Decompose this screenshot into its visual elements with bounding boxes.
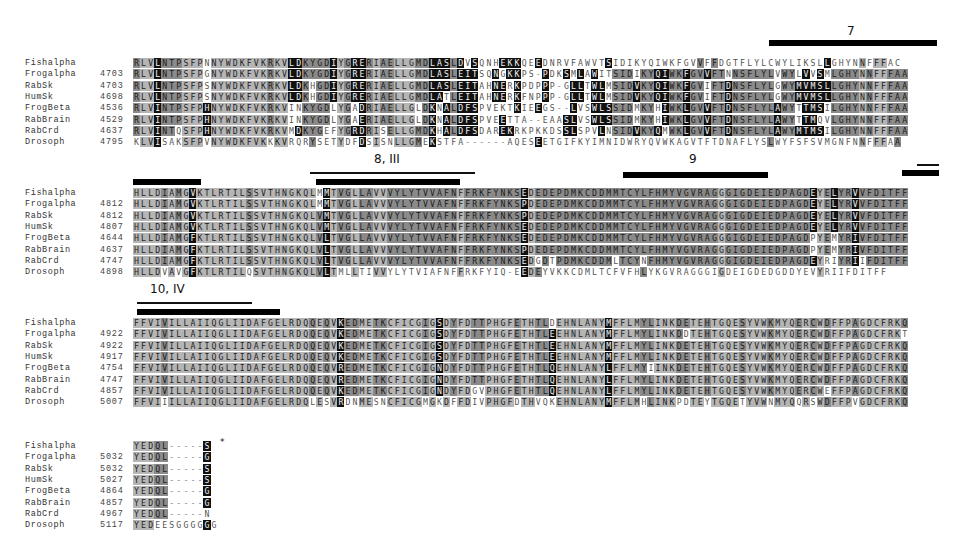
residue-number: 4637: [100, 245, 124, 256]
species-name: HumSk: [25, 222, 54, 233]
sequence: RLVLNTPSFPSNYWDKFVKRKVLDKHGDIYGRERIAELLG…: [133, 92, 908, 102]
residue-number: 4529: [100, 115, 124, 126]
sequence: RLVLNTPSFPNNYWDKFVKRKVLDKYGDIYGRERIAELLG…: [133, 58, 901, 68]
helix-bar: [769, 40, 937, 46]
sequence: YEDQL-----G: [133, 498, 211, 508]
sequence: RLVLNTPSFPGNYWDKFVKRKVLDKYGDIYGRERIAELLG…: [133, 69, 908, 79]
sequence: FFVIVILLAIIQGLIIDAFGELRDQQEQVREDMETKCFIC…: [133, 375, 908, 385]
sequence: YEDQL-----S: [133, 464, 211, 474]
sequence: YEDEESGGGGGG: [133, 520, 218, 530]
residue-number: 4747: [100, 375, 124, 386]
species-name: Frogalpha: [25, 69, 76, 80]
species-name: RabCrd: [25, 509, 59, 520]
species-name: RabSk: [25, 81, 54, 92]
residue-number: 4922: [100, 341, 124, 352]
segment-underline: [917, 164, 939, 166]
sequence: YEDQL-----S: [133, 441, 211, 451]
species-name: RabCrd: [25, 126, 59, 137]
helix-bar: [133, 179, 201, 185]
residue-number: 4812: [100, 199, 124, 210]
residue-number: 4857: [100, 386, 124, 397]
sequence: FFVIVILLAIIQGLIIDAFGELRDQQEQVREDMETKCFIC…: [133, 363, 908, 373]
residue-number: 4922: [100, 329, 124, 340]
residue-number: 4747: [100, 256, 124, 267]
residue-number: 4644: [100, 233, 124, 244]
sequence: FFVIIILLAIIQGLIIDAFGELRDQLESVRDNMESNCFIC…: [133, 397, 908, 407]
helix-bar: [137, 309, 280, 315]
residue-number: 5027: [100, 475, 124, 486]
sequence: RLVINTPSFPHNYWDKFVKRKVINKYGDLYGADRIAELLG…: [133, 103, 908, 113]
sequence: HLLDIAMGFKTLRTILSSVTHNGKQLVLTVGLLAVVVYLY…: [133, 256, 908, 266]
sequence: KLVISAKSFPVNYWDKFVKKKVRQRYSETYDFDSISNLLG…: [133, 137, 901, 147]
sequence: FFVIVILLAIIQGLIIDAFGELRDQQEQVKEDMETKCFIC…: [133, 318, 908, 328]
species-name: Drosoph: [25, 397, 65, 408]
species-name: RabBrain: [25, 245, 71, 256]
segment-label: 8, III: [374, 152, 400, 166]
segment-label: 9: [689, 152, 697, 166]
sequence: FFVIVILLAIIQGLIIDAFGELRDQQEQVKEDMETKCFIC…: [133, 329, 908, 339]
residue-number: 4917: [100, 352, 124, 363]
segment-underline: [137, 302, 252, 304]
species-name: RabSk: [25, 464, 54, 475]
species-name: FrogBeta: [25, 103, 71, 114]
segment-label: *: [220, 437, 225, 447]
residue-number: 4637: [100, 126, 124, 137]
residue-number: 4703: [100, 69, 124, 80]
sequence: YEDQL-----S: [133, 475, 211, 485]
residue-number: 4698: [100, 92, 124, 103]
residue-number: 4864: [100, 486, 124, 497]
residue-number: 5032: [100, 464, 124, 475]
sequence: RLVLNTPSFPSNYWDKFVKRKVLDKHGDIYGRERIAELLG…: [133, 81, 908, 91]
sequence: YEDQL-----N: [133, 509, 211, 519]
helix-bar: [902, 170, 939, 176]
species-name: RabBrain: [25, 115, 71, 126]
sequence: HLLDIAMGVKTLRTILSSVTHNGKQLMMTVGLLAVVVYLY…: [133, 188, 908, 198]
sequence: HLLDIAMGVKTLRTILSSVTHNGKQLVMTVGLLAVVVYLY…: [133, 222, 908, 232]
species-name: RabCrd: [25, 386, 59, 397]
species-name: FrogBeta: [25, 363, 71, 374]
segment-label: 10, IV: [150, 282, 185, 296]
sequence: FFVIVILLAIIQGLIIDAFGELRDQQEQVKEDMETKCFIC…: [133, 386, 908, 396]
species-name: Drosoph: [25, 520, 65, 531]
species-name: Fishalpha: [25, 441, 76, 452]
sequence: HLLDIAMGVKTLRTILSSVTHNGKQLVMTVGLLAVVVYLY…: [133, 211, 908, 221]
segment-label: 7: [847, 24, 855, 38]
species-name: Fishalpha: [25, 58, 76, 69]
species-name: RabSk: [25, 211, 54, 222]
residue-number: 5032: [100, 452, 124, 463]
sequence: HLLDIAMGFKTLRTILSSVTHNGKQLVLTVGLLAVVVYLY…: [133, 245, 908, 255]
sequence: RLVINTQSFPHNYWDKFVKRKVMDKYGEFYGRDRISELLG…: [133, 126, 908, 136]
species-name: HumSk: [25, 475, 54, 486]
sequence: HLLDIAMGVKTLRTILSSVTHNGKQLMMTVGLLAVVVYLY…: [133, 199, 908, 209]
sequence: HLLDVAVGFKTLRTILQSVTHNGKQLVLTMLLTIVVYLYT…: [133, 267, 887, 277]
residue-number: 5117: [100, 520, 124, 531]
residue-number: 4812: [100, 211, 124, 222]
residue-number: 4536: [100, 103, 124, 114]
species-name: Fishalpha: [25, 188, 76, 199]
sequence: FFVIVILLAIIQGLIIDAFGELRDQQEQVKEDMETKCFIC…: [133, 352, 908, 362]
species-name: FrogBeta: [25, 233, 71, 244]
species-name: HumSk: [25, 352, 54, 363]
species-name: RabBrain: [25, 498, 71, 509]
residue-number: 4898: [100, 267, 124, 278]
residue-number: 4807: [100, 222, 124, 233]
sequence: YEDQL-----G: [133, 452, 211, 462]
residue-number: 4967: [100, 509, 124, 520]
species-name: Drosoph: [25, 137, 65, 148]
species-name: RabBrain: [25, 375, 71, 386]
species-name: Drosoph: [25, 267, 65, 278]
species-name: RabSk: [25, 341, 54, 352]
species-name: Frogalpha: [25, 329, 76, 340]
sequence: FFVIVILLAIIQGLIIDAFGELRDQQEQVKEDMETKCFIC…: [133, 341, 908, 351]
residue-number: 4795: [100, 137, 124, 148]
sequence: HLLDIAMGFKTLRTILSSVTHNGKQLVLTVGLLAVVVYLY…: [133, 233, 908, 243]
sequence: RLVINTPSFPHNYWDKFVKRKVINKYGDLYGAERIAELLG…: [133, 115, 908, 125]
species-name: Frogalpha: [25, 199, 76, 210]
species-name: FrogBeta: [25, 486, 71, 497]
species-name: Frogalpha: [25, 452, 76, 463]
residue-number: 4754: [100, 363, 124, 374]
residue-number: 5007: [100, 397, 124, 408]
helix-bar: [316, 179, 460, 185]
residue-number: 4703: [100, 81, 124, 92]
segment-underline: [310, 172, 475, 174]
